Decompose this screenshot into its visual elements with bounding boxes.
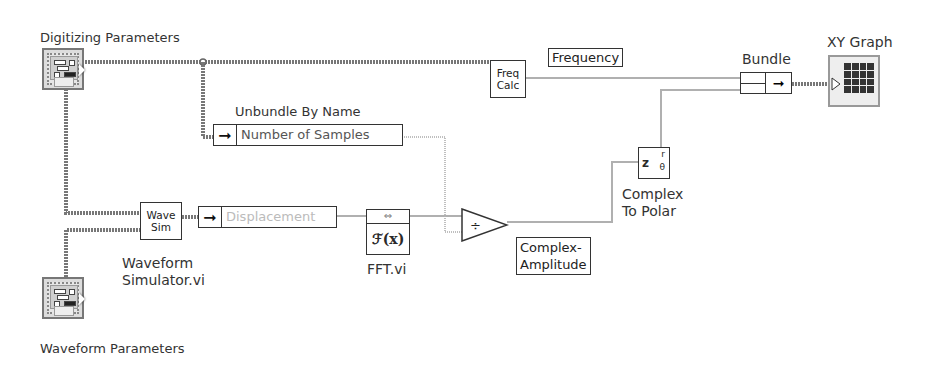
fft-node[interactable]: ⇔ ℱ(x) (366, 209, 410, 255)
caption-line-2: Simulator.vi (122, 272, 205, 289)
theta-output-icon: θ (659, 162, 665, 172)
number-of-samples-field[interactable]: Number of Samples (237, 125, 374, 145)
output-terminal-icon (79, 293, 85, 305)
displacement-field[interactable]: Displacement (222, 207, 319, 227)
unbundle-arrow-icon: ➞ (199, 207, 222, 227)
divide-icon: ÷ (470, 218, 481, 233)
graph-icon (844, 63, 874, 93)
complex-to-polar-node[interactable]: z r θ (638, 147, 670, 179)
caption-line-2: To Polar (622, 203, 683, 220)
waveform-simulator-caption: Waveform Simulator.vi (122, 255, 205, 289)
waveform-parameters-control[interactable] (42, 277, 84, 319)
indicator-line-1: Complex- (520, 239, 587, 256)
waveform-parameters-label: Waveform Parameters (40, 341, 185, 356)
xy-graph-indicator[interactable] (828, 55, 880, 107)
output-terminal-icon (79, 64, 85, 76)
wave-sim-label-1: Wave (147, 209, 176, 221)
bundle-arrow-icon: ➞ (766, 73, 791, 93)
freq-calc-node[interactable]: Freq Calc (490, 60, 526, 98)
input-terminal-icon (831, 77, 841, 91)
bundle-input-1[interactable] (741, 73, 765, 84)
unbundle-arrow-icon: ➞ (214, 125, 237, 145)
xy-graph-title: XY Graph (827, 35, 893, 50)
wire-divide-to-polar (507, 162, 638, 222)
bundle-node[interactable]: ➞ (740, 72, 792, 94)
freq-calc-label-2: Calc (497, 79, 519, 91)
bundle-input-2[interactable] (741, 84, 765, 94)
z-input-icon: z (642, 156, 649, 170)
complex-amplitude-indicator[interactable]: Complex- Amplitude (516, 237, 591, 275)
digitizing-parameters-control[interactable] (42, 48, 84, 90)
frequency-indicator[interactable]: Frequency (548, 48, 623, 67)
r-output-icon: r (661, 149, 665, 159)
bundle-title: Bundle (742, 52, 791, 67)
digitizing-parameters-label: Digitizing Parameters (40, 30, 180, 45)
freq-calc-label-1: Freq (497, 67, 520, 79)
fourier-transform-icon: ℱ(x) (367, 224, 409, 254)
unbundle-title: Unbundle By Name (235, 104, 361, 119)
wave-sim-label-2: Sim (151, 221, 171, 233)
indicator-line-2: Amplitude (520, 256, 587, 273)
complex-to-polar-caption: Complex To Polar (622, 186, 683, 220)
caption-line-1: Waveform (122, 255, 205, 272)
wire-samples-to-divide (402, 137, 462, 232)
wire-polar-to-bundle (661, 90, 740, 148)
wires-layer (0, 0, 935, 368)
fft-caption: FFT.vi (367, 262, 406, 277)
wire-digitizing-to-wavesim (66, 83, 140, 213)
divide-node[interactable]: ÷ (461, 208, 509, 242)
wave-sim-node[interactable]: Wave Sim (140, 202, 182, 240)
unbundle-by-name-node[interactable]: ➞ Number of Samples (213, 124, 403, 146)
bidirectional-arrow-icon: ⇔ (367, 210, 409, 224)
caption-line-1: Complex (622, 186, 683, 203)
unbundle-displacement-node[interactable]: ➞ Displacement (198, 206, 337, 228)
